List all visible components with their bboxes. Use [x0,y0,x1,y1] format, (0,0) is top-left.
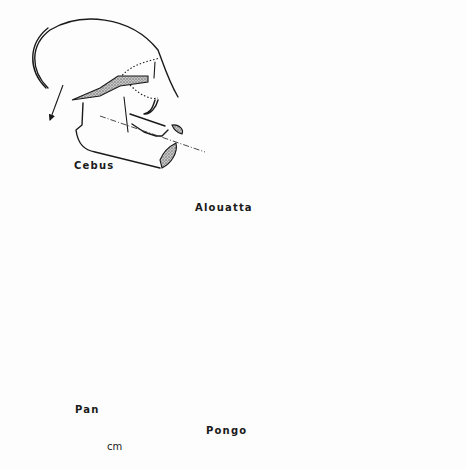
scale-unit-label: cm [107,441,122,452]
label-alouatta: Alouatta [195,202,253,213]
skull-drawings [0,0,466,469]
label-cebus: Cebus [74,160,114,171]
primate-skull-figure: Cebus Alouatta Pan Pongo cm [0,0,466,469]
cebus-skull [33,19,205,168]
label-pongo: Pongo [206,425,247,436]
label-pan: Pan [75,404,100,415]
